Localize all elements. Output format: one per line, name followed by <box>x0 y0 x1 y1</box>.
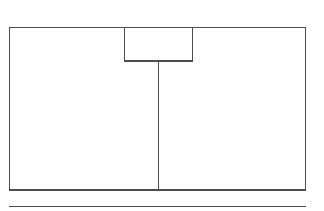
diagram-canvas: Plan view line drawing <box>0 0 324 211</box>
line-drawing-svg <box>0 0 324 211</box>
top-alcove-fill <box>125 28 192 60</box>
